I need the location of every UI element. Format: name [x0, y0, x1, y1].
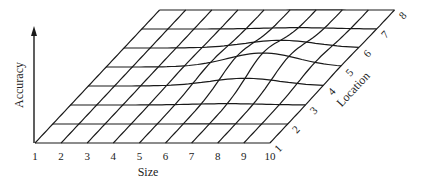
size-gridline [61, 10, 186, 143]
size-gridline [87, 10, 212, 143]
surface-plot: Accuracy 12345678910 Size 12345678 Locat… [0, 0, 421, 184]
size-tick-label: 5 [137, 150, 143, 162]
location-tick-label: 3 [307, 104, 320, 117]
location-tick-label: 5 [343, 66, 356, 79]
location-tick-label: 4 [325, 85, 338, 98]
location-gridline [124, 40, 359, 48]
location-gridline [88, 78, 323, 86]
size-tick-label: 8 [215, 150, 221, 162]
size-tick-label: 1 [32, 150, 38, 162]
surface-plot-svg: Accuracy 12345678910 Size 12345678 Locat… [0, 0, 421, 184]
location-tick-label: 7 [379, 28, 392, 41]
size-gridline [139, 10, 264, 143]
size-tick-label: 9 [241, 150, 247, 162]
accuracy-axis-arrow-icon [31, 26, 37, 36]
accuracy-axis-label: Accuracy [12, 62, 26, 108]
size-tick-label: 7 [189, 150, 195, 162]
size-tick-label: 6 [163, 150, 169, 162]
size-tick-label: 4 [111, 150, 117, 162]
size-gridline [218, 10, 343, 143]
size-axis-label: Size [138, 165, 159, 179]
size-tick-label: 10 [264, 150, 276, 162]
wireframe-mesh [35, 10, 395, 143]
location-tick-label: 2 [290, 123, 303, 135]
size-gridline [166, 10, 291, 143]
size-gridline [113, 10, 238, 143]
location-tick-label: 8 [396, 9, 409, 22]
size-gridline [270, 10, 395, 143]
size-tick-label: 3 [84, 150, 90, 162]
size-tick-labels: 12345678910 [32, 150, 276, 162]
location-gridline [71, 104, 306, 105]
location-tick-label: 6 [361, 47, 374, 60]
location-gridline [106, 53, 341, 67]
location-tick-labels: 12345678 [272, 9, 409, 155]
size-tick-label: 2 [58, 150, 64, 162]
location-gridline [142, 28, 377, 29]
size-gridline [192, 10, 317, 143]
size-gridline [35, 10, 160, 143]
